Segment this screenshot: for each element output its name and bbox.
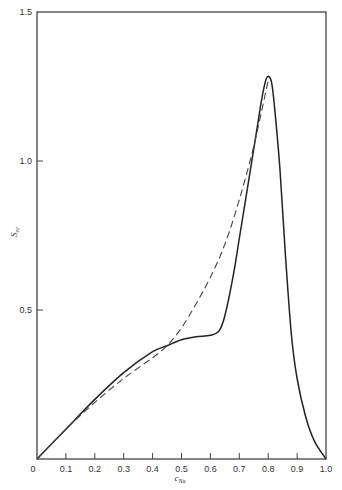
y-tick-label: 1.5: [19, 7, 32, 17]
x-tick-label: 0.1: [60, 464, 73, 474]
dashed-curve: [37, 81, 268, 460]
x-tick-label: 0.9: [291, 464, 304, 474]
x-axis-label: cNa: [174, 473, 185, 484]
x-axis-ticks: 00.10.20.30.40.50.60.70.80.91.0: [30, 453, 332, 474]
x-tick-label: 0.6: [204, 464, 217, 474]
x-tick-label: 1.0: [320, 464, 333, 474]
x-tick-label: 0.2: [89, 464, 102, 474]
x-tick-label: 0.4: [146, 464, 159, 474]
x-tick-label: 0.7: [233, 464, 246, 474]
y-axis-ticks: 0.51.01.5: [19, 7, 43, 315]
y-tick-label: 0.5: [19, 305, 32, 315]
x-tick-label: 0.8: [262, 464, 275, 474]
plot-frame: [37, 12, 326, 459]
y-axis-label: See: [9, 227, 20, 237]
x-tick-label: 0.3: [117, 464, 130, 474]
chart: 0.51.01.5 00.10.20.30.40.50.60.70.80.91.…: [0, 0, 342, 490]
y-tick-label: 1.0: [19, 156, 32, 166]
solid-curve: [37, 76, 326, 459]
x-tick-label: 0: [30, 464, 35, 474]
